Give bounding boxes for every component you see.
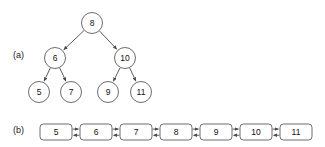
tree-edge-8-to-10 bbox=[100, 31, 117, 49]
list-item-value: 8 bbox=[174, 127, 179, 137]
binary-search-tree: 861057911 bbox=[29, 13, 152, 103]
tree-node-8: 8 bbox=[82, 13, 103, 34]
tree-node-9: 9 bbox=[98, 82, 119, 103]
tree-edge-10-to-11 bbox=[130, 68, 136, 81]
tree-node-5: 5 bbox=[29, 82, 50, 103]
tree-node-11: 11 bbox=[131, 82, 152, 103]
tree-edge-8-to-6 bbox=[64, 31, 84, 50]
tree-node-6: 6 bbox=[45, 48, 66, 69]
list-item-11: 11 bbox=[280, 124, 312, 140]
list-item-7: 7 bbox=[120, 124, 152, 140]
doubly-linked-list: 567891011 bbox=[40, 124, 312, 140]
tree-edge-6-to-7 bbox=[60, 68, 66, 81]
tree-edge-10-to-9 bbox=[113, 68, 120, 81]
list-item-value: 5 bbox=[54, 127, 59, 137]
tree-node-value: 10 bbox=[120, 53, 130, 63]
list-connector-7-8 bbox=[153, 129, 160, 135]
list-item-value: 6 bbox=[94, 127, 99, 137]
figure-container: (a) (b) 861057911 567891011 bbox=[0, 0, 325, 147]
list-item-6: 6 bbox=[80, 124, 112, 140]
list-connector-10-11 bbox=[273, 129, 280, 135]
list-item-value: 7 bbox=[134, 127, 139, 137]
list-connector-6-7 bbox=[113, 129, 120, 135]
tree-node-value: 9 bbox=[106, 87, 111, 97]
list-connector-5-6 bbox=[73, 129, 80, 135]
list-item-9: 9 bbox=[200, 124, 232, 140]
list-item-value: 9 bbox=[214, 127, 219, 137]
tree-node-value: 6 bbox=[53, 53, 58, 63]
tree-node-7: 7 bbox=[61, 82, 82, 103]
tree-edge-6-to-5 bbox=[44, 68, 50, 81]
tree-node-value: 7 bbox=[69, 87, 74, 97]
list-connector-9-10 bbox=[233, 129, 240, 135]
tree-nodes: 861057911 bbox=[29, 13, 152, 103]
panel-label-b: (b) bbox=[13, 125, 24, 135]
list-boxes: 567891011 bbox=[40, 124, 312, 140]
tree-node-value: 11 bbox=[137, 87, 146, 97]
tree-node-value: 8 bbox=[90, 18, 95, 28]
list-item-10: 10 bbox=[240, 124, 272, 140]
tree-node-10: 10 bbox=[115, 48, 136, 69]
list-item-value: 10 bbox=[251, 127, 261, 137]
diagram-svg: 861057911 567891011 bbox=[0, 0, 325, 147]
list-item-value: 11 bbox=[292, 127, 301, 137]
panel-label-a: (a) bbox=[13, 50, 24, 60]
list-item-5: 5 bbox=[40, 124, 72, 140]
list-item-8: 8 bbox=[160, 124, 192, 140]
list-connector-8-9 bbox=[193, 129, 200, 135]
tree-node-value: 5 bbox=[37, 87, 42, 97]
